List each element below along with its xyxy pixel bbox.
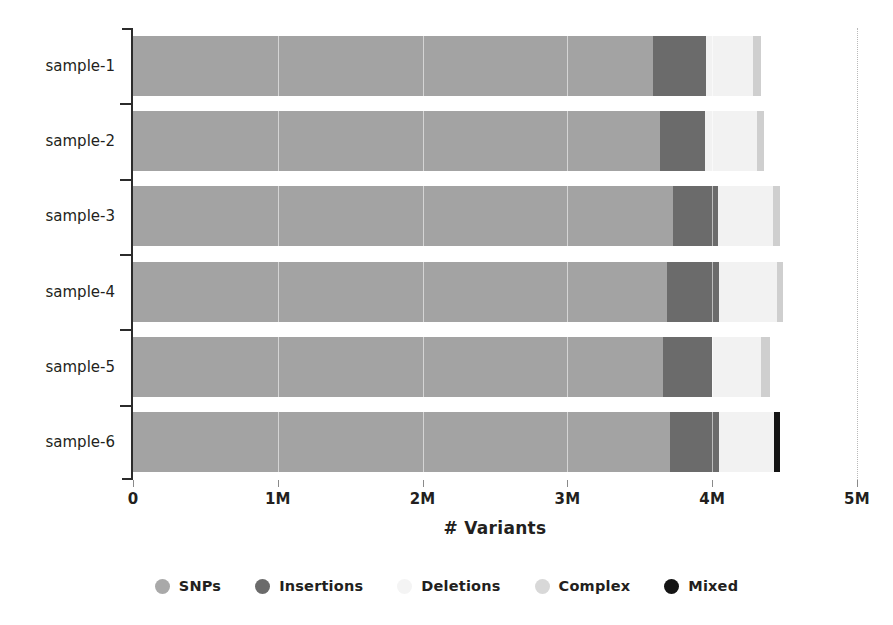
- x-axis-tick: [133, 480, 134, 487]
- bar-segment-insertions[interactable]: [660, 111, 705, 171]
- bar-gridline: [712, 262, 713, 322]
- bar-gridline: [278, 412, 279, 472]
- y-axis-label: sample-1: [46, 57, 116, 75]
- bar-segment-deletions[interactable]: [719, 412, 774, 472]
- bar-gridline: [567, 36, 568, 96]
- y-axis-cap-top: [122, 28, 133, 30]
- bar-segment-complex[interactable]: [761, 337, 770, 397]
- bar-row[interactable]: [133, 36, 857, 96]
- bar-gridline: [712, 186, 713, 246]
- bar-gridline: [278, 36, 279, 96]
- legend-item[interactable]: Insertions: [255, 578, 363, 594]
- legend-swatch-circle-icon: [535, 579, 550, 594]
- x-axis-tick-label: 0: [128, 490, 139, 508]
- bar-gridline: [423, 262, 424, 322]
- y-axis-label: sample-6: [46, 433, 116, 451]
- legend-label: Complex: [559, 578, 631, 594]
- bar-gridline: [567, 337, 568, 397]
- bar-segment-complex[interactable]: [773, 186, 780, 246]
- bar-gridline: [423, 111, 424, 171]
- legend-item[interactable]: Deletions: [397, 578, 500, 594]
- y-axis-cap-bottom: [122, 478, 133, 480]
- bar-row[interactable]: [133, 337, 857, 397]
- y-axis-tick: [120, 405, 133, 407]
- legend-swatch-circle-icon: [155, 579, 170, 594]
- bar-gridline: [567, 262, 568, 322]
- bar-gridline: [567, 111, 568, 171]
- legend-swatch-circle-icon: [664, 579, 679, 594]
- bar-gridline: [567, 186, 568, 246]
- x-axis-tick-label: 5M: [844, 490, 870, 508]
- y-axis-label: sample-3: [46, 207, 116, 225]
- bar-gridline: [278, 337, 279, 397]
- bar-segment-snps[interactable]: [133, 412, 670, 472]
- legend-label: Mixed: [688, 578, 738, 594]
- bar-segment-mixed[interactable]: [774, 412, 780, 472]
- bar-segment-insertions[interactable]: [653, 36, 707, 96]
- y-axis-labels: sample-1sample-2sample-3sample-4sample-5…: [0, 0, 115, 625]
- x-axis-tick: [278, 480, 279, 487]
- chart-legend: SNPsInsertionsDeletionsComplexMixed: [0, 578, 893, 594]
- gridline-5m: [857, 28, 858, 480]
- x-axis-tick: [712, 480, 713, 487]
- bar-segment-complex[interactable]: [757, 111, 764, 171]
- bar-segment-snps[interactable]: [133, 262, 667, 322]
- y-axis-tick: [120, 329, 133, 331]
- bar-segment-snps[interactable]: [133, 111, 660, 171]
- x-axis-tick: [567, 480, 568, 487]
- x-axis-tick-label: 1M: [265, 490, 291, 508]
- bar-segment-deletions[interactable]: [718, 186, 773, 246]
- x-axis-tick-label: 2M: [410, 490, 436, 508]
- stacked-bar-chart: sample-1sample-2sample-3sample-4sample-5…: [0, 0, 893, 625]
- x-axis-tick-label: 3M: [555, 490, 581, 508]
- bar-gridline: [712, 36, 713, 96]
- plot-area: [133, 28, 857, 480]
- legend-label: Insertions: [279, 578, 363, 594]
- y-axis-label: sample-5: [46, 358, 116, 376]
- legend-item[interactable]: Complex: [535, 578, 631, 594]
- legend-label: Deletions: [421, 578, 500, 594]
- bar-segment-insertions[interactable]: [663, 337, 712, 397]
- bar-segment-deletions[interactable]: [706, 36, 752, 96]
- bar-gridline: [712, 337, 713, 397]
- bar-gridline: [712, 412, 713, 472]
- bar-row[interactable]: [133, 412, 857, 472]
- bar-gridline: [423, 186, 424, 246]
- bar-segment-deletions[interactable]: [719, 262, 777, 322]
- bar-segment-snps[interactable]: [133, 337, 663, 397]
- y-axis-tick: [120, 103, 133, 105]
- bar-gridline: [567, 412, 568, 472]
- legend-item[interactable]: Mixed: [664, 578, 738, 594]
- x-axis-tick: [423, 480, 424, 487]
- x-axis-tick: [857, 480, 858, 487]
- bar-row[interactable]: [133, 186, 857, 246]
- bar-gridline: [423, 36, 424, 96]
- y-axis-tick: [120, 254, 133, 256]
- bar-row[interactable]: [133, 262, 857, 322]
- y-axis-label: sample-2: [46, 132, 116, 150]
- legend-label: SNPs: [179, 578, 221, 594]
- bar-gridline: [278, 111, 279, 171]
- bar-gridline: [278, 186, 279, 246]
- bar-segment-deletions[interactable]: [712, 337, 761, 397]
- legend-swatch-circle-icon: [397, 579, 412, 594]
- bar-gridline: [712, 111, 713, 171]
- bar-gridline: [278, 262, 279, 322]
- legend-swatch-circle-icon: [255, 579, 270, 594]
- bar-segment-complex[interactable]: [777, 262, 783, 322]
- bar-gridline: [423, 412, 424, 472]
- x-axis-tick-label: 4M: [699, 490, 725, 508]
- chart-title-cropped: [0, 0, 893, 7]
- x-axis-title: # Variants: [133, 518, 857, 538]
- bar-segment-snps[interactable]: [133, 36, 653, 96]
- y-axis-tick: [120, 179, 133, 181]
- y-axis-label: sample-4: [46, 283, 116, 301]
- bar-segment-complex[interactable]: [753, 36, 762, 96]
- bar-segment-snps[interactable]: [133, 186, 673, 246]
- legend-item[interactable]: SNPs: [155, 578, 221, 594]
- bar-gridline: [423, 337, 424, 397]
- bar-row[interactable]: [133, 111, 857, 171]
